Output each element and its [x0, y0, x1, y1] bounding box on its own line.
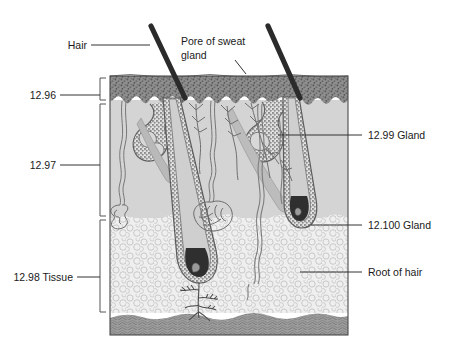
- skin-block: [110, 75, 348, 336]
- label-pore-line-1: Pore of sweat: [181, 35, 245, 47]
- label-root-of-hair: Root of hair: [368, 266, 423, 278]
- label-12-99-gland: 12.99 Gland: [368, 129, 425, 141]
- label-pore-line-2: gland: [181, 49, 207, 61]
- bracket-dermis: [100, 104, 106, 216]
- label-hair: Hair: [68, 39, 88, 51]
- bracket-epidermis: [100, 78, 106, 100]
- subcutaneous-layer: [110, 215, 348, 313]
- leader-pore: [235, 60, 246, 74]
- muscle-layer: [110, 313, 348, 335]
- label-12-97: 12.97: [30, 159, 56, 171]
- label-12-96: 12.96: [30, 89, 56, 101]
- label-12-100-gland: 12.100 Gland: [368, 219, 431, 231]
- figure-canvas: 12.96 12.97 12.98 Tissue Hair Pore of sw…: [0, 0, 456, 355]
- label-12-98-tissue: 12.98 Tissue: [13, 271, 73, 283]
- layer-brackets: [100, 78, 106, 312]
- skin-cross-section-diagram: 12.96 12.97 12.98 Tissue Hair Pore of sw…: [0, 0, 456, 355]
- bracket-subcutaneous: [100, 220, 106, 312]
